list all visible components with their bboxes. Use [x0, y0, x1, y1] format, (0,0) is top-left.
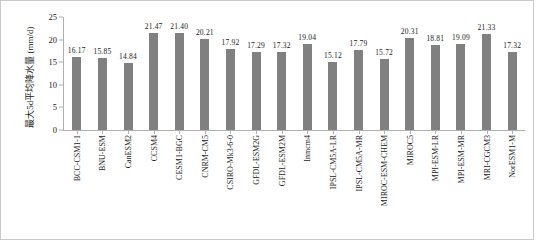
bar[interactable]: 17.32: [277, 52, 286, 130]
x-axis-category-label: CCSM4: [149, 135, 158, 161]
bar[interactable]: 14.84: [124, 63, 133, 130]
bar-slot: 14.84: [115, 17, 141, 130]
bar-value-label: 21.47: [145, 22, 163, 31]
bar-slot: 20.21: [192, 17, 218, 130]
x-axis-label-slot: MIROC5: [397, 135, 423, 231]
bar[interactable]: 20.21: [200, 39, 209, 130]
x-axis-category-label: Inmcm4: [303, 135, 312, 162]
bar[interactable]: 19.04: [303, 44, 312, 130]
bar[interactable]: 17.29: [252, 52, 261, 130]
bar[interactable]: 21.47: [149, 33, 158, 130]
y-axis-tick-mark: [59, 39, 63, 40]
bar[interactable]: 16.17: [72, 57, 81, 130]
bar[interactable]: 18.81: [431, 45, 440, 130]
x-axis-tick-mark: [256, 130, 257, 134]
x-axis-label-slot: BNU-ESM: [90, 135, 116, 231]
bar[interactable]: 19.09: [456, 44, 465, 130]
bar-slot: 21.47: [141, 17, 167, 130]
bar[interactable]: 17.92: [226, 49, 235, 130]
x-axis-label-slot: GFDL-ESM2G: [243, 135, 269, 231]
bar-value-label: 19.09: [452, 33, 470, 42]
plot-area: 0510152025 16.1715.8514.8421.4721.4020.2…: [63, 17, 525, 131]
x-axis-category-label: GFDL-ESM2G: [252, 135, 261, 185]
x-axis-category-label: MIROC5: [405, 135, 414, 165]
bar-value-label: 19.04: [298, 33, 316, 42]
bar[interactable]: 17.32: [508, 52, 517, 130]
x-axis-category-label: BNU-ESM: [98, 135, 107, 171]
x-axis-tick-mark: [512, 130, 513, 134]
x-axis-tick-mark: [384, 130, 385, 134]
bar[interactable]: 15.72: [380, 59, 389, 130]
x-axis-category-label: BCC-CSM1-1: [72, 135, 81, 181]
x-axis-label-slot: GFDL-ESM2M: [269, 135, 295, 231]
x-axis-category-label: CNRM-CM5: [200, 135, 209, 178]
x-axis-label-slot: MPI-ESM-MR: [448, 135, 474, 231]
bar-value-label: 20.21: [196, 28, 214, 37]
x-axis-tick-mark: [102, 130, 103, 134]
x-axis-category-label: MRI-CGCM3: [482, 135, 491, 180]
x-axis-line: [63, 130, 525, 131]
x-axis-tick-mark: [205, 130, 206, 134]
x-axis-category-label: CSIRO-Mk3-6-0: [226, 135, 235, 190]
x-axis-label-slot: NorESM1-M: [499, 135, 525, 231]
x-axis-category-label: NorESM1-M: [508, 135, 517, 178]
x-axis-label-slot: CESM1-BGC: [166, 135, 192, 231]
bar-slot: 21.40: [166, 17, 192, 130]
y-axis-tick-mark: [59, 17, 63, 18]
bar[interactable]: 15.12: [328, 62, 337, 130]
bar-value-label: 14.84: [119, 52, 137, 61]
x-axis-tick-mark: [179, 130, 180, 134]
y-axis-tick-mark: [59, 107, 63, 108]
bar-value-label: 15.85: [93, 47, 111, 56]
bar[interactable]: 20.31: [405, 38, 414, 130]
y-axis-title: 最大5d平均降水量 (mm/d): [23, 17, 37, 137]
x-axis-category-label: CanESM2: [124, 135, 133, 168]
bar-value-label: 17.92: [222, 38, 240, 47]
x-axis-tick-mark: [333, 130, 334, 134]
bar-value-label: 21.33: [478, 23, 496, 32]
x-axis-label-slot: CSIRO-Mk3-6-0: [218, 135, 244, 231]
bar-slot: 20.31: [397, 17, 423, 130]
x-axis-label-slot: Inmcm4: [294, 135, 320, 231]
x-axis-label-slot: BCC-CSM1-1: [64, 135, 90, 231]
x-axis-tick-mark: [128, 130, 129, 134]
y-axis-tick-mark: [59, 84, 63, 85]
bar-chart-figure: 最大5d平均降水量 (mm/d) 0510152025 16.1715.8514…: [0, 0, 534, 240]
x-axis-category-label: CESM1-BGC: [175, 135, 184, 180]
x-axis-label-slot: MPI-ESM-LR: [423, 135, 449, 231]
bar[interactable]: 17.79: [354, 50, 363, 130]
x-axis-category-label: IPSL-CM5A-MR: [354, 135, 363, 191]
x-axis-tick-mark: [461, 130, 462, 134]
bar-slot: 15.85: [90, 17, 116, 130]
x-axis-tick-mark: [154, 130, 155, 134]
bar-value-label: 18.81: [426, 34, 444, 43]
x-axis-category-label: MPI-ESM-LR: [431, 135, 440, 181]
bar-value-label: 17.32: [503, 41, 521, 50]
x-axis-label-slot: IPSL-CM5A-LR: [320, 135, 346, 231]
x-axis-labels: BCC-CSM1-1BNU-ESMCanESM2CCSM4CESM1-BGCCN…: [64, 135, 525, 231]
bar-slot: 15.12: [320, 17, 346, 130]
bar-slot: 17.32: [269, 17, 295, 130]
bar[interactable]: 21.40: [175, 33, 184, 130]
x-axis-label-slot: IPSL-CM5A-MR: [346, 135, 372, 231]
x-axis-tick-mark: [410, 130, 411, 134]
bar-slot: 16.17: [64, 17, 90, 130]
bar[interactable]: 15.85: [98, 58, 107, 130]
x-axis-tick-mark: [359, 130, 360, 134]
bar-value-label: 17.79: [350, 39, 368, 48]
x-axis-tick-mark: [435, 130, 436, 134]
bar-value-label: 16.17: [68, 46, 86, 55]
x-axis-category-label: MIROC-ESM-CHEM: [380, 135, 389, 206]
bar-value-label: 15.72: [375, 48, 393, 57]
bar-slot: 17.29: [243, 17, 269, 130]
x-axis-tick-mark: [77, 130, 78, 134]
y-axis-tick-mark: [59, 62, 63, 63]
y-axis-tick-mark: [59, 130, 63, 131]
bar-value-label: 17.29: [247, 41, 265, 50]
bar[interactable]: 21.33: [482, 34, 491, 130]
x-axis-category-label: IPSL-CM5A-LR: [328, 135, 337, 189]
bar-slot: 19.04: [294, 17, 320, 130]
bar-value-label: 15.12: [324, 51, 342, 60]
x-axis-tick-mark: [487, 130, 488, 134]
bar-slot: 17.32: [499, 17, 525, 130]
